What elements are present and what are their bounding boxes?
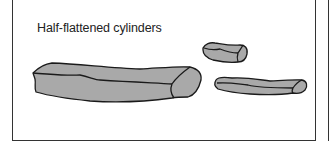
cylinders-illustration (0, 0, 331, 148)
small-cylinder (203, 43, 247, 63)
medium-cylinder (215, 77, 307, 94)
large-cylinder (33, 63, 201, 102)
